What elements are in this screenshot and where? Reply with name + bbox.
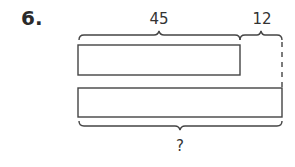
label-12: 12: [252, 10, 271, 28]
label-total-unknown: ?: [176, 137, 184, 155]
brace-total: [79, 121, 282, 130]
brace-45: [79, 31, 240, 40]
brace-12: [240, 31, 282, 40]
bottom-bar: [78, 88, 282, 117]
label-45: 45: [149, 10, 168, 28]
tape-diagram: 45 12 ?: [0, 0, 295, 167]
top-bar: [78, 45, 240, 75]
